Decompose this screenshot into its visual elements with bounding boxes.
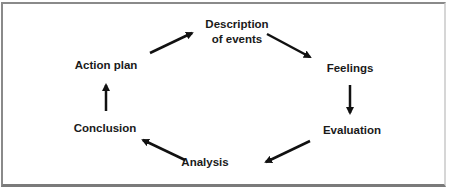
arrow-action-to-description-icon bbox=[150, 33, 192, 53]
arrow-evaluation-to-analysis-icon bbox=[266, 141, 310, 162]
arrow-description-to-feelings-icon bbox=[267, 34, 310, 57]
arrow-analysis-to-conclusion-icon bbox=[143, 140, 185, 160]
cycle-arrows bbox=[0, 0, 450, 195]
